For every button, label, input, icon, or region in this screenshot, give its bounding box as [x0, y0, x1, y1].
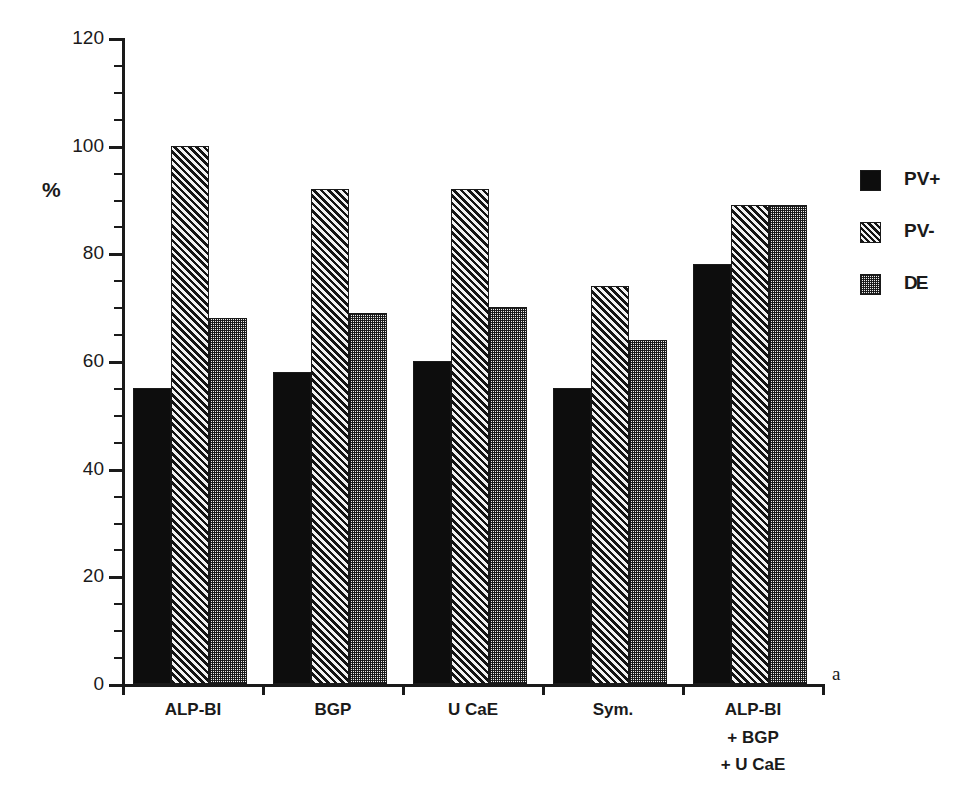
y-minor-tick	[114, 200, 122, 202]
x-category-label-combined: ALP-BI + BGP + U CaE	[688, 696, 818, 779]
legend-swatch-de-icon	[860, 274, 881, 295]
y-minor-tick	[114, 226, 122, 228]
legend-swatch-pv-plus-icon	[860, 170, 881, 191]
x-tick-boundary	[122, 684, 125, 695]
x-category-label-sym: Sym.	[548, 696, 678, 724]
y-minor-tick	[114, 603, 122, 605]
x-axis-line	[122, 684, 825, 687]
y-minor-tick	[114, 630, 122, 632]
bar-u-cae-de	[489, 307, 527, 684]
panel-letter: a	[832, 663, 840, 685]
bar-bgp-pv-plus	[273, 372, 311, 684]
y-minor-tick	[114, 523, 122, 525]
bar-alp-bi-pv-minus	[171, 146, 209, 684]
bar-u-cae-pv-plus	[413, 361, 451, 684]
bar-combined-de	[769, 205, 807, 684]
y-minor-tick	[114, 442, 122, 444]
y-tick-label-40: 40	[83, 458, 104, 480]
y-tick-label-120: 120	[72, 27, 104, 49]
bar-sym-de	[629, 340, 667, 685]
y-tick-100	[109, 146, 122, 149]
y-minor-tick	[114, 65, 122, 67]
y-tick-label-100: 100	[72, 135, 104, 157]
y-minor-tick	[114, 388, 122, 390]
bar-alp-bi-pv-plus	[133, 388, 171, 684]
y-axis-line	[122, 38, 125, 684]
y-tick-label-80: 80	[83, 242, 104, 264]
x-category-label-bgp: BGP	[268, 696, 398, 724]
x-tick-boundary	[822, 684, 825, 695]
plot-area: 120 100 80 60 40 20 0	[122, 38, 822, 684]
y-minor-tick	[114, 334, 122, 336]
legend-label-pv-minus: PV-	[904, 220, 935, 242]
y-minor-tick	[114, 549, 122, 551]
y-tick-label-20: 20	[83, 565, 104, 587]
y-tick-60	[109, 361, 122, 364]
y-minor-tick	[114, 496, 122, 498]
x-tick-boundary	[542, 684, 545, 695]
bar-alp-bi-de	[209, 318, 247, 684]
y-tick-label-0: 0	[93, 673, 104, 695]
y-tick-40	[109, 469, 122, 472]
bar-bgp-pv-minus	[311, 189, 349, 684]
x-tick-boundary	[402, 684, 405, 695]
y-minor-tick	[114, 307, 122, 309]
y-tick-80	[109, 253, 122, 256]
y-tick-0	[109, 684, 122, 687]
y-minor-tick	[114, 415, 122, 417]
y-tick-20	[109, 576, 122, 579]
bar-sym-pv-minus	[591, 286, 629, 684]
y-tick-120	[109, 38, 122, 41]
bar-u-cae-pv-minus	[451, 189, 489, 684]
bar-combined-pv-minus	[731, 205, 769, 684]
x-category-label-alp-bi: ALP-BI	[128, 696, 258, 724]
legend-swatch-pv-minus-icon	[860, 222, 881, 243]
legend-label-pv-plus: PV+	[904, 168, 940, 190]
legend-label-de: DE	[904, 272, 926, 294]
y-tick-label-60: 60	[83, 350, 104, 372]
y-minor-tick	[114, 173, 122, 175]
y-minor-tick	[114, 657, 122, 659]
x-tick-boundary	[682, 684, 685, 695]
y-minor-tick	[114, 280, 122, 282]
bar-bgp-de	[349, 313, 387, 685]
x-category-label-u-cae: U CaE	[408, 696, 538, 724]
y-minor-tick	[114, 92, 122, 94]
y-axis-label: %	[42, 178, 61, 202]
bar-chart-figure: % 120 100 80 60 40 20 0	[0, 0, 977, 785]
bar-combined-pv-plus	[693, 264, 731, 684]
y-minor-tick	[114, 119, 122, 121]
bar-sym-pv-plus	[553, 388, 591, 684]
x-tick-boundary	[262, 684, 265, 695]
